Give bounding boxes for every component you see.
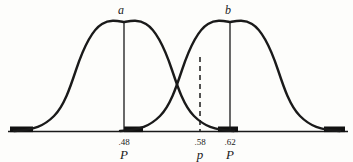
tick-value-1: .58 (184, 138, 216, 147)
tick-symbol-2: P (214, 148, 246, 161)
curve-label-b: b (225, 4, 231, 16)
curve-label-a: a (118, 4, 124, 16)
tick-value-0: .48 (108, 138, 140, 147)
plot-canvas (0, 0, 353, 162)
tick-value-2: .62 (214, 138, 246, 147)
tick-symbol-0: P (108, 148, 140, 161)
tick-symbol-1: p (184, 148, 216, 161)
normal-curves-figure: a b .48 P .58 p .62 P (0, 0, 353, 162)
